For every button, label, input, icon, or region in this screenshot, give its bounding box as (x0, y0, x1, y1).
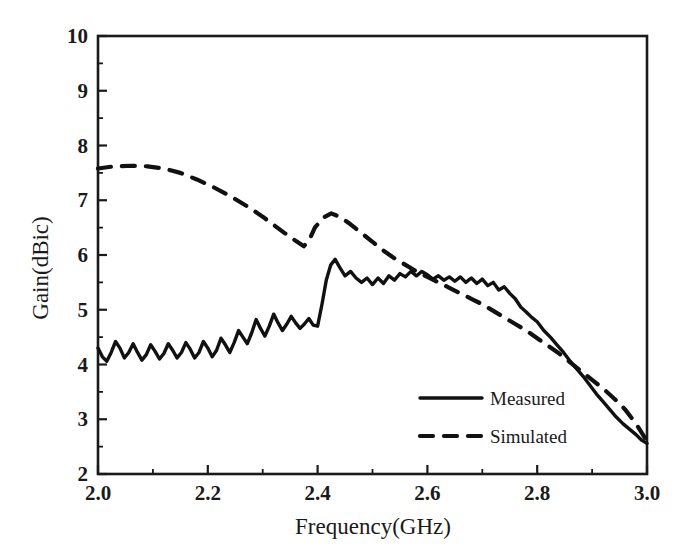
y-tick-label: 4 (78, 353, 89, 377)
y-tick-label: 2 (78, 462, 89, 486)
x-tick-label: 2.2 (195, 481, 221, 505)
x-tick-label: 3.0 (634, 481, 660, 505)
legend-label-measured: Measured (490, 388, 565, 409)
x-tick-label: 2.8 (524, 481, 550, 505)
gain-vs-frequency-plot: 2.02.22.42.62.83.0 2345678910 Frequency(… (0, 0, 690, 553)
y-tick-label: 5 (78, 298, 89, 322)
y-axis-title: Gain(dBic) (28, 216, 53, 319)
legend-label-simulated: Simulated (490, 426, 568, 447)
chart-figure: 2.02.22.42.62.83.0 2345678910 Frequency(… (0, 0, 690, 553)
x-tick-label: 2.4 (304, 481, 331, 505)
y-tick-label: 7 (78, 188, 89, 212)
x-tick-label: 2.0 (85, 481, 111, 505)
y-tick-label: 3 (78, 407, 89, 431)
y-tick-label: 8 (78, 134, 89, 158)
x-tick-label: 2.6 (414, 481, 440, 505)
y-tick-label: 6 (78, 243, 89, 267)
x-axis-title: Frequency(GHz) (295, 514, 451, 539)
y-tick-label: 10 (67, 24, 88, 48)
y-tick-label: 9 (78, 79, 89, 103)
